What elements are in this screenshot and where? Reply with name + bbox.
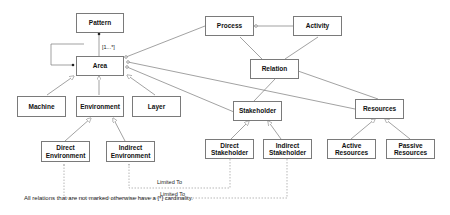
box-label: Direct Environment xyxy=(42,144,89,159)
box-process: Process xyxy=(205,16,254,36)
limited-to-label-1: Limited To xyxy=(157,179,182,185)
box-active-resources: Active Resources xyxy=(327,139,376,159)
box-direct-environment: Direct Environment xyxy=(41,141,90,162)
box-area: Area xyxy=(76,56,124,76)
box-indirect-environment: Indirect Environment xyxy=(106,141,155,162)
footnote: All relations that are not marked otherw… xyxy=(24,195,193,201)
box-label: Stakeholder xyxy=(239,107,276,114)
box-label: Direct Stakeholder xyxy=(206,142,253,157)
cardinality-label: [1...*] xyxy=(102,44,115,50)
box-label: Activity xyxy=(306,22,329,29)
box-indirect-stakeholder: Indirect Stakeholder xyxy=(263,139,312,159)
box-activity: Activity xyxy=(293,16,342,36)
box-layer: Layer xyxy=(132,96,181,117)
box-label: Process xyxy=(217,22,242,29)
box-label: Indirect Environment xyxy=(107,144,154,159)
box-relation: Relation xyxy=(250,59,299,79)
box-machine: Machine xyxy=(17,96,66,117)
box-label: Pattern xyxy=(89,19,111,26)
box-resources: Resources xyxy=(355,99,404,119)
box-label: Resources xyxy=(363,105,396,112)
box-label: Environment xyxy=(80,103,120,110)
box-label: Area xyxy=(93,62,107,69)
box-passive-resources: Passive Resources xyxy=(386,139,435,159)
box-label: Machine xyxy=(28,103,54,110)
box-label: Active Resources xyxy=(328,142,375,157)
box-label: Layer xyxy=(148,103,165,110)
box-stakeholder: Stakeholder xyxy=(233,101,282,121)
box-environment: Environment xyxy=(76,96,124,117)
box-label: Indirect Stakeholder xyxy=(264,142,311,157)
box-label: Relation xyxy=(262,65,288,72)
box-direct-stakeholder: Direct Stakeholder xyxy=(205,139,254,159)
box-pattern: Pattern xyxy=(76,13,124,33)
box-label: Passive Resources xyxy=(387,142,434,157)
